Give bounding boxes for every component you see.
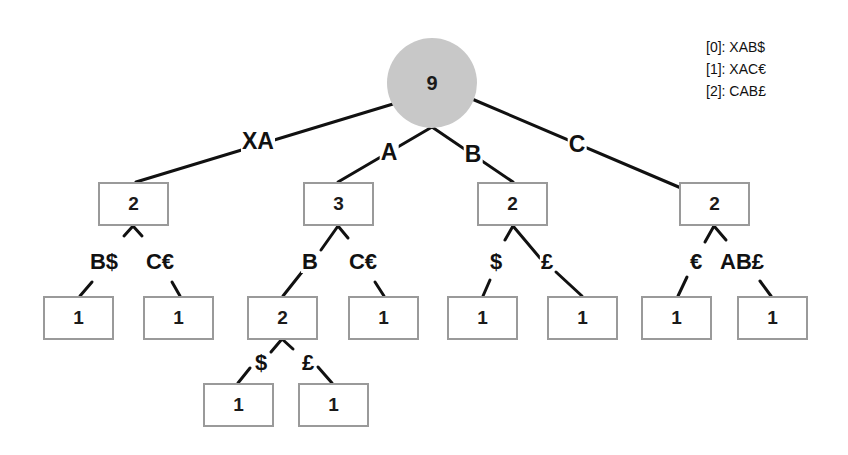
node-c: 2 bbox=[679, 182, 750, 226]
node-count: 2 bbox=[709, 193, 720, 215]
node-count: 1 bbox=[767, 307, 778, 329]
edge-label-euro: € bbox=[689, 251, 703, 273]
node-b: 2 bbox=[477, 182, 548, 226]
legend-entry-0: [0]: XAB$ bbox=[706, 36, 766, 58]
node-count: 1 bbox=[671, 307, 682, 329]
edge-label-b: B bbox=[464, 143, 483, 166]
node-count: 1 bbox=[173, 307, 184, 329]
legend-entry-1: [1]: XAC€ bbox=[706, 58, 766, 80]
edge-label-a: A bbox=[380, 141, 399, 164]
edge-a-ce-top bbox=[338, 226, 348, 238]
edge-label-ce-1: C€ bbox=[145, 251, 175, 273]
node-ac-leaf: 1 bbox=[348, 296, 419, 340]
edge-label-dollar-1: $ bbox=[489, 251, 503, 273]
node-count: 2 bbox=[277, 307, 288, 329]
edge-b-pound-top bbox=[513, 226, 540, 258]
node-count: 2 bbox=[128, 193, 139, 215]
edge-a-ce bbox=[375, 282, 384, 296]
node-count: 2 bbox=[507, 193, 518, 215]
edge-label-abp: AB£ bbox=[719, 251, 765, 273]
edge-label-bs: B$ bbox=[89, 251, 119, 273]
node-xa: 2 bbox=[98, 182, 169, 226]
edge-c-euro-top bbox=[705, 226, 714, 242]
edge-label-pound-2: £ bbox=[301, 352, 315, 374]
node-b-dollar-leaf: 1 bbox=[447, 296, 518, 340]
node-cab-leaf: 1 bbox=[737, 296, 808, 340]
node-count: 1 bbox=[328, 394, 339, 416]
node-c-euro-leaf: 1 bbox=[641, 296, 712, 340]
string-legend: [0]: XAB$ [1]: XAC€ [2]: CAB£ bbox=[706, 36, 766, 102]
edge-c-abp-top bbox=[714, 226, 726, 240]
edge-label-dollar-2: $ bbox=[254, 352, 268, 374]
edge-b-dollar-top bbox=[505, 226, 513, 240]
edge-b-pound bbox=[556, 272, 582, 296]
edge-label-b-2: B bbox=[301, 251, 319, 273]
node-count: 1 bbox=[577, 307, 588, 329]
edge-label-pound-1: £ bbox=[540, 251, 554, 273]
node-count: 3 bbox=[333, 193, 344, 215]
edge-label-c: C bbox=[568, 133, 587, 156]
edge-a-b-top bbox=[321, 226, 338, 250]
edge-a-b bbox=[283, 272, 302, 296]
legend-entry-2: [2]: CAB£ bbox=[706, 80, 766, 102]
node-ab: 2 bbox=[247, 296, 318, 340]
edge-xa-ce bbox=[172, 282, 180, 296]
edge-c-euro bbox=[678, 277, 687, 296]
root-node: 9 bbox=[387, 38, 477, 128]
edge-ab-pound-top bbox=[282, 339, 293, 349]
node-b-pound-leaf: 1 bbox=[547, 296, 618, 340]
node-xab-leaf: 1 bbox=[43, 296, 114, 340]
edge-c-abp bbox=[760, 281, 771, 296]
edge-xa-ce-top bbox=[133, 226, 142, 236]
edge-ab-dollar bbox=[238, 368, 250, 383]
root-count: 9 bbox=[426, 72, 437, 95]
node-xac-leaf: 1 bbox=[143, 296, 214, 340]
node-count: 1 bbox=[233, 394, 244, 416]
node-count: 1 bbox=[477, 307, 488, 329]
edge-label-ce-2: C€ bbox=[348, 251, 378, 273]
node-ab-pound-leaf: 1 bbox=[298, 383, 369, 427]
edge-ab-pound bbox=[318, 367, 332, 383]
edge-xa-bs-top bbox=[124, 226, 133, 236]
edge-xa-bs bbox=[80, 282, 92, 296]
edge-b-dollar bbox=[483, 280, 490, 296]
edge-ab-dollar-top bbox=[271, 339, 282, 352]
edge-label-xa: XA bbox=[241, 130, 275, 153]
node-count: 1 bbox=[73, 307, 84, 329]
node-ab-dollar-leaf: 1 bbox=[203, 383, 274, 427]
suffix-tree-diagram: 9 XA A B C 2 3 2 2 B$ C€ B C€ $ £ € AB£ … bbox=[0, 0, 848, 455]
node-a: 3 bbox=[303, 182, 374, 226]
node-count: 1 bbox=[378, 307, 389, 329]
